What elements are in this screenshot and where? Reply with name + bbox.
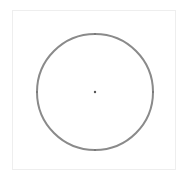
tick-top bbox=[94, 33, 96, 35]
tick-bottom bbox=[94, 149, 96, 151]
center-point bbox=[94, 91, 96, 93]
circle-diagram bbox=[0, 0, 184, 178]
tick-left bbox=[36, 91, 38, 93]
tick-right bbox=[152, 91, 154, 93]
